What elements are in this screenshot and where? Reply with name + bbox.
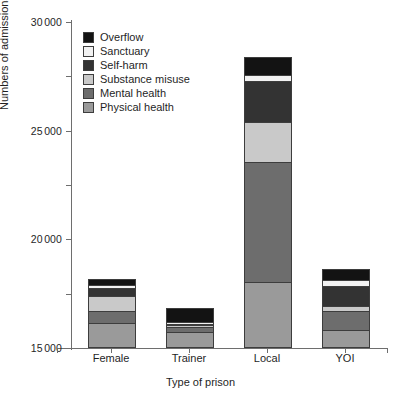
y-axis-tick-label: 25000 xyxy=(31,125,62,137)
y-axis-tick: 25000 xyxy=(66,76,72,77)
legend-swatch-substance-misuse xyxy=(83,74,94,85)
legend-item-label: Substance misuse xyxy=(100,74,190,85)
bar-segment-overflow xyxy=(167,309,213,322)
bar-segment-substance-misuse xyxy=(89,296,135,311)
y-axis-tick: 0 xyxy=(66,348,72,349)
bar-segment-mental-health xyxy=(323,311,369,329)
legend-swatch-physical-health xyxy=(83,102,94,113)
legend-swatch-mental-health xyxy=(83,88,94,99)
legend-swatch-sanctuary xyxy=(83,46,94,57)
y-axis-tick: 10000 xyxy=(66,239,72,240)
bar-segment-physical-health xyxy=(89,323,135,347)
bar-segment-mental-health xyxy=(89,311,135,323)
legend-item: Self-harm xyxy=(83,58,190,72)
bar-segment-physical-health xyxy=(323,330,369,347)
y-axis-title: Numbers of admissions xyxy=(0,0,10,110)
bar-female xyxy=(88,279,136,348)
y-axis-tick: 30000 xyxy=(66,22,72,23)
legend-item: Physical health xyxy=(83,100,190,114)
bar-segment-overflow xyxy=(323,270,369,280)
legend-item-label: Mental health xyxy=(100,88,166,99)
bar-segment-substance-misuse xyxy=(245,122,291,162)
figure-caption xyxy=(0,406,401,414)
x-axis-title: Type of prison xyxy=(0,376,401,388)
bar-segment-self-harm xyxy=(89,288,135,296)
x-axis-line xyxy=(57,348,387,349)
bar-trainer xyxy=(166,308,214,348)
legend-item-label: Overflow xyxy=(100,32,143,43)
legend-item: Sanctuary xyxy=(83,44,190,58)
x-axis-end-tick xyxy=(387,348,388,353)
x-axis-label-female: Female xyxy=(93,352,130,364)
x-axis-label-yoi: YOI xyxy=(336,352,355,364)
bar-segment-physical-health xyxy=(245,282,291,347)
x-axis-label-trainer: Trainer xyxy=(172,352,206,364)
bar-segment-physical-health xyxy=(167,332,213,347)
x-axis-label-local: Local xyxy=(254,352,280,364)
bar-local xyxy=(244,57,292,348)
legend-item: Mental health xyxy=(83,86,190,100)
bar-segment-self-harm xyxy=(323,286,369,307)
legend-swatch-overflow xyxy=(83,32,94,43)
stacked-bar-chart-figure: Numbers of admissions 050001000015000200… xyxy=(0,0,401,414)
y-axis-tick: 15000 xyxy=(66,185,72,186)
legend-item: Substance misuse xyxy=(83,72,190,86)
bar-segment-self-harm xyxy=(245,81,291,122)
legend-item-label: Physical health xyxy=(100,102,174,113)
legend-item-label: Sanctuary xyxy=(100,46,150,57)
y-axis-tick: 5000 xyxy=(66,294,72,295)
legend-item-label: Self-harm xyxy=(100,60,148,71)
chart-legend: OverflowSanctuarySelf-harmSubstance misu… xyxy=(83,30,190,114)
y-axis-title-wrapper: Numbers of admissions xyxy=(0,0,10,110)
bar-segment-mental-health xyxy=(245,162,291,282)
x-axis-end-tick xyxy=(57,348,58,353)
bar-segment-overflow xyxy=(245,58,291,75)
legend-item: Overflow xyxy=(83,30,190,44)
bar-yoi xyxy=(322,269,370,348)
y-axis-tick-label: 20000 xyxy=(31,233,62,245)
y-axis-tick: 20000 xyxy=(66,131,72,132)
legend-swatch-self-harm xyxy=(83,60,94,71)
y-axis-tick-label: 30000 xyxy=(31,16,62,28)
